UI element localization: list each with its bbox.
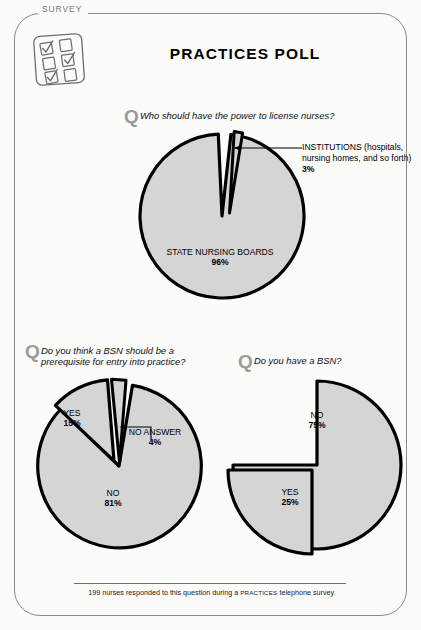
label-q2-no-name: NO — [107, 488, 120, 498]
question-marker-icon: Q — [124, 107, 139, 126]
question-marker-icon: Q — [25, 342, 40, 361]
pie-slice-state-nursing-boards — [140, 134, 304, 298]
question-text-2: Do you think a BSN should be a prerequis… — [25, 345, 215, 367]
label-q3-yes-pct: 25% — [270, 497, 310, 507]
label-q2-no-answer-name: NO ANSWER — [129, 427, 182, 437]
label-q2-no-answer-pct: 4% — [118, 437, 192, 447]
survey-page: SURVEY PRACTICES — [0, 0, 421, 630]
question-text-3: Do you have a BSN? — [238, 355, 388, 366]
label-q2-no-answer: NO ANSWER 4% — [118, 427, 192, 448]
label-q2-no: NO 81% — [93, 488, 133, 509]
question-marker-icon: Q — [238, 352, 253, 371]
label-institutions: INSTITUTIONS (hospitals, nursing homes, … — [302, 142, 414, 175]
label-institutions-pct: 3% — [302, 164, 414, 175]
label-q3-no: NO 75% — [297, 410, 337, 431]
question-text-1: Who should have the power to license nur… — [124, 110, 344, 121]
page-title: PRACTICES POLL — [120, 45, 370, 63]
footer-text-before: 199 nurses responded to this question du… — [88, 588, 240, 597]
label-q3-no-name: NO — [311, 410, 324, 420]
question-block-3: Q Do you have a BSN? — [238, 355, 388, 366]
footer-brand: PRACTICES — [240, 589, 277, 596]
survey-legend-label: SURVEY — [38, 4, 88, 14]
question-block-1: Q Who should have the power to license n… — [124, 110, 344, 121]
label-institutions-name: INSTITUTIONS (hospitals, nursing homes, … — [302, 142, 411, 163]
label-q2-yes: YES 15% — [52, 408, 92, 429]
pie-chart-bsn-prerequisite — [22, 375, 217, 553]
label-q2-yes-pct: 15% — [52, 418, 92, 428]
label-q2-no-pct: 81% — [93, 498, 133, 508]
label-q3-yes-name: YES — [281, 487, 298, 497]
pie-chart-license-power — [130, 128, 320, 308]
footer-note: 199 nurses responded to this question du… — [74, 588, 350, 597]
label-q3-yes: YES 25% — [270, 487, 310, 508]
label-state-boards-name: STATE NURSING BOARDS — [166, 247, 273, 257]
footer-divider — [74, 583, 346, 584]
label-state-boards-pct: 96% — [157, 257, 283, 267]
label-q3-no-pct: 75% — [297, 420, 337, 430]
pie-chart-have-bsn — [230, 378, 405, 553]
checkbox-grid-icon — [31, 30, 88, 89]
label-q2-yes-name: YES — [63, 408, 80, 418]
footer-text-after: telephone survey. — [277, 588, 335, 597]
pie-slice-yes — [228, 470, 312, 554]
label-state-nursing-boards: STATE NURSING BOARDS 96% — [157, 247, 283, 268]
question-block-2: Q Do you think a BSN should be a prerequ… — [25, 345, 215, 367]
